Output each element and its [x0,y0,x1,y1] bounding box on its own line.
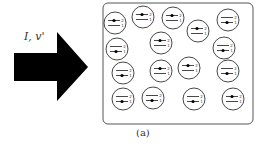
atom: 21 [142,87,164,109]
electron-dot [140,13,143,16]
atom: 21 [112,88,134,110]
atom: 21 [187,20,209,42]
diagram-canvas: 21212121212121212121212121212121 [0,0,270,148]
electron-dot [158,39,161,42]
atom: 21 [217,60,239,82]
electron-dot [112,19,115,22]
atom: 21 [106,38,128,60]
electron-dot [120,100,123,103]
electron-dot [170,14,173,17]
electron-dot [191,100,194,103]
atom: 21 [222,88,244,110]
electron-dot [120,74,123,77]
atom: 21 [112,62,134,84]
atom: 21 [162,7,184,29]
atom: 21 [217,9,239,31]
electron-dot [186,64,189,67]
atom-group: 21212121212121212121212121212121 [104,6,244,110]
atom: 21 [213,37,235,59]
electron-dot [158,67,161,70]
electron-dot [195,27,198,30]
electron-dot [221,49,224,52]
electron-dot [150,99,153,102]
atom: 21 [183,88,205,110]
electron-dot [114,50,117,53]
atom: 21 [104,12,126,34]
electron-dot [230,95,233,98]
figure-caption: (a) [136,127,150,138]
arrow-label: I, v' [24,30,45,43]
atom: 21 [178,57,200,79]
electron-dot [225,21,228,24]
atom: 21 [132,6,154,28]
atom: 21 [150,32,172,54]
atom: 21 [150,60,172,82]
electron-dot [225,72,228,75]
